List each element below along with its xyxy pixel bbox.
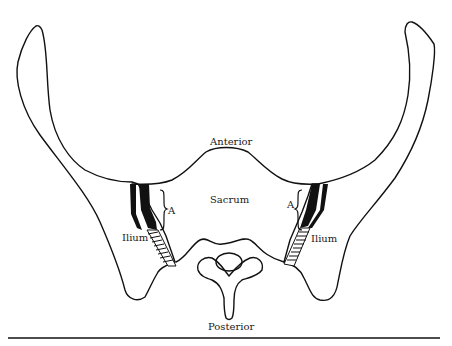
left-joint-band-inner <box>139 184 157 230</box>
sacrum-lower-edge <box>176 239 284 262</box>
label-posterior: Posterior <box>208 322 254 332</box>
label-ilium-left: Ilium <box>122 233 148 243</box>
label-ilium-right: Ilium <box>311 234 337 244</box>
anterior-sacrum-edge <box>132 148 318 185</box>
label-sacrum: Sacrum <box>210 195 249 205</box>
spinous-process <box>198 258 263 320</box>
right-ilium-outline <box>284 22 435 301</box>
label-a-right: A <box>287 200 294 210</box>
pelvis-cross-section-diagram: Anterior Sacrum Posterior Ilium Ilium A … <box>0 0 452 346</box>
left-ilium-outline <box>17 26 175 300</box>
right-brace <box>295 190 302 230</box>
left-hatched-ligament <box>147 230 176 266</box>
label-anterior: Anterior <box>210 137 252 147</box>
vertebral-body <box>216 253 242 271</box>
diagram-drawing <box>0 0 452 346</box>
label-a-left: A <box>168 206 175 216</box>
